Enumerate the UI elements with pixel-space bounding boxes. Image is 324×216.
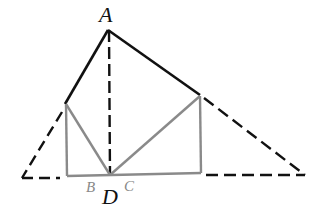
edge-a-left [65, 30, 108, 104]
label-a: A [99, 4, 112, 26]
edge-a-right [108, 30, 200, 95]
label-c: C [124, 179, 134, 194]
label-d: D [102, 186, 118, 208]
label-b: B [86, 180, 95, 195]
geometry-diagram [0, 0, 324, 216]
dashed-right-side [204, 98, 305, 175]
altitude-ad [109, 30, 110, 175]
gray-left-vertical [66, 104, 67, 176]
gray-base [67, 173, 201, 176]
gray-right-diagonal [110, 96, 200, 175]
gray-right-vertical [200, 96, 201, 173]
dashed-left-side [22, 112, 62, 178]
gray-left-diagonal [66, 104, 110, 175]
